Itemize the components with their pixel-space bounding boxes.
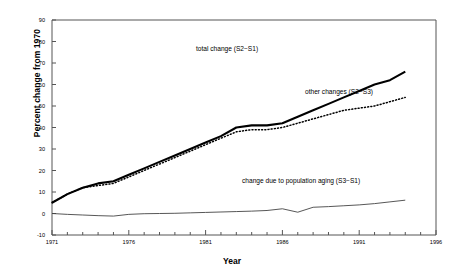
annotation-total-change: total change (S2−S1) [196,45,258,52]
series-line-2 [52,200,405,216]
annotation-population-aging: change due to population aging (S3−S1) [242,177,360,184]
annotation-other-changes: other changes (S2−S3) [305,88,373,95]
plot-area [0,0,464,278]
chart-figure: Percent change from 1970 Year -100102030… [0,0,464,278]
series-line-1 [52,97,405,202]
